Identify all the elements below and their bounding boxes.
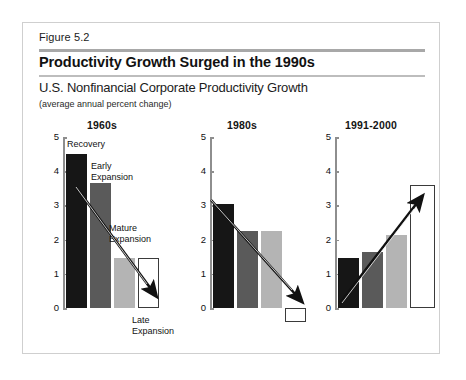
plot-area-1991-2000: 5 4 3 2 1 0 [311, 137, 433, 349]
panel-title-1960s: 1960s [47, 119, 157, 131]
panel-1991-2000: 1991-2000 5 4 3 2 1 0 [311, 119, 433, 349]
plot-area-1980s: 5 4 3 2 1 0 [186, 137, 308, 349]
panel-title-1980s: 1980s [192, 119, 292, 131]
trend-arrow-1960s [39, 137, 179, 347]
plot-area-1960s: 5 4 3 2 1 0 Recovery Early Expansion Mat… [39, 137, 179, 349]
panel-1960s: 1960s 5 4 3 2 1 0 [39, 119, 179, 349]
figure-frame: Figure 5.2 Productivity Growth Surged in… [22, 22, 440, 354]
chart-panels: 1960s 5 4 3 2 1 0 [23, 23, 441, 355]
trend-arrow-1991-2000 [311, 137, 441, 347]
panel-1980s: 1980s 5 4 3 2 1 0 [186, 119, 308, 349]
trend-arrow-1980s [186, 137, 316, 347]
panel-title-1991-2000: 1991-2000 [317, 119, 425, 131]
